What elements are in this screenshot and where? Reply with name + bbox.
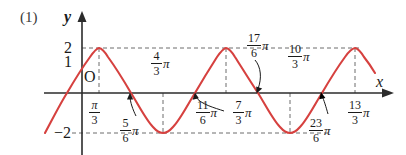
y-tick-label-1: 1 [64,54,72,70]
x-label-5pi-over-6: 5 6 π [120,117,139,144]
fraction: 17 6 [247,32,261,59]
x-axis-label: x [376,74,383,90]
fraction: 7 3 [233,99,244,126]
pi-symbol: π [211,105,218,121]
x-label-7pi-over-3: 7 3 π [233,99,252,126]
pi-symbol: π [303,49,310,65]
fraction: π 3 [89,99,100,126]
y-axis-arrowhead [78,11,87,22]
x-label-pi-over-3: π 3 [89,99,101,126]
x-label-10pi-over-3: 10 3 π [288,43,310,70]
pi-symbol: π [132,123,139,139]
x-axis-arrowhead [382,89,394,98]
fraction: 10 3 [288,43,302,70]
y-axis-label: y [64,9,71,25]
pi-symbol: π [163,56,170,72]
pi-symbol: π [245,105,252,121]
y-tick-label-minus-2: −2 [54,125,71,141]
fraction: 4 3 [151,50,162,77]
x-label-4pi-over-3: 4 3 π [151,50,170,77]
x-label-23pi-over-6: 23 6 π [309,117,331,144]
fraction: 11 6 [196,99,210,126]
problem-number: (1) [20,10,38,25]
fraction: 5 6 [120,117,131,144]
annotation-arrow-23pi6 [322,96,328,114]
fraction: 13 3 [348,99,362,126]
x-label-13pi-over-3: 13 3 π [348,99,370,126]
x-label-17pi-over-6: 17 6 π [247,32,269,59]
origin-label: O [84,69,96,85]
pi-symbol: π [363,105,370,121]
fraction: 23 6 [309,117,323,144]
pi-symbol: π [262,38,269,54]
pi-symbol: π [324,123,331,139]
annotation-arrow-17pi6 [255,60,260,89]
x-label-11pi-over-6: 11 6 π [196,99,217,126]
